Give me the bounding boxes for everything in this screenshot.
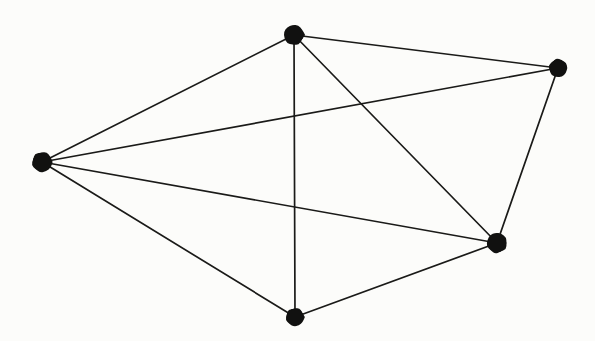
left-vertex-dot [33, 153, 51, 171]
graph-canvas [0, 0, 595, 341]
edge-top-bottom [294, 35, 295, 317]
bottom-vertex-dot [287, 309, 303, 325]
top-right-vertex-dot [550, 60, 566, 76]
right-lower-vertex-dot [488, 234, 506, 252]
top-vertex-dot [285, 26, 303, 44]
graph-figure [0, 0, 595, 341]
